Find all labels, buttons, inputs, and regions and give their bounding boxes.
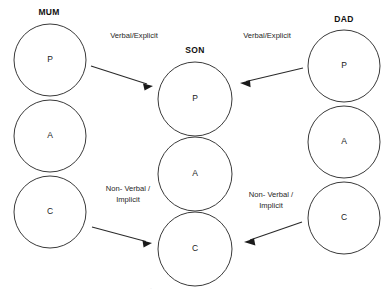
label-son-adult: A — [192, 168, 198, 178]
ego-state-dad-parent: P — [308, 30, 380, 102]
label-son-parent: P — [192, 93, 198, 103]
arrow-line — [91, 66, 147, 84]
arrow-dad-child-to-son-child — [244, 222, 302, 245]
ego-state-son-child: C — [158, 212, 232, 286]
edge-label-line-2: Implicit — [259, 201, 284, 210]
edge-label-non-verbal-implicit-right: Non- Verbal / Implicit — [249, 190, 294, 210]
arrow-head-icon — [240, 80, 251, 87]
arrow-head-icon — [244, 238, 255, 245]
person-label-son: SON — [185, 45, 204, 55]
arrow-line — [250, 222, 302, 240]
ego-state-mum-child: C — [14, 176, 86, 248]
pac-diagram-svg: MUM P A C SON P A — [0, 0, 392, 296]
label-mum-parent: P — [47, 54, 53, 64]
ego-state-mum-parent: P — [14, 24, 86, 96]
column-mum: MUM P A C — [14, 7, 86, 248]
person-label-mum: MUM — [38, 7, 59, 17]
person-label-dad: DAD — [334, 14, 353, 24]
label-dad-adult: A — [341, 136, 347, 146]
arrow-mum-parent-to-son-parent — [91, 66, 153, 91]
ego-state-son-parent: P — [158, 62, 232, 136]
ego-state-mum-adult: A — [14, 100, 86, 172]
column-son: SON P A C — [158, 45, 232, 286]
edge-label-line-1: Non- Verbal / — [106, 184, 151, 193]
edge-label-verbal-explicit-right: Verbal/Explicit — [243, 31, 292, 40]
label-dad-child: C — [341, 212, 347, 222]
arrow-line — [246, 68, 303, 82]
ego-state-dad-adult: A — [308, 106, 380, 178]
edge-label-line-1: Non- Verbal / — [249, 190, 294, 199]
edge-label-line-2: Implicit — [116, 195, 141, 204]
edge-label-non-verbal-implicit-left: Non- Verbal / Implicit — [106, 184, 151, 204]
arrow-mum-child-to-son-child — [92, 227, 152, 248]
arrow-dad-parent-to-son-parent — [240, 68, 303, 87]
arrow-line — [92, 227, 146, 242]
label-son-child: C — [192, 243, 198, 253]
label-mum-child: C — [47, 206, 53, 216]
column-dad: DAD P A C — [308, 14, 380, 254]
label-mum-adult: A — [47, 130, 53, 140]
arrow-head-icon — [143, 84, 153, 91]
ego-state-son-adult: A — [158, 137, 232, 211]
ego-state-dad-child: C — [308, 182, 380, 254]
diagram-canvas: MUM P A C SON P A — [0, 0, 392, 296]
arrow-head-icon — [143, 241, 153, 248]
edge-label-verbal-explicit-left: Verbal/Explicit — [110, 31, 159, 40]
label-dad-parent: P — [341, 60, 347, 70]
